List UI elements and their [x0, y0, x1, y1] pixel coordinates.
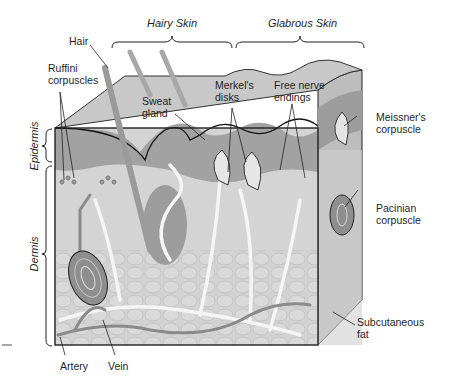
free-nerve-endings-label: Free nerve endings	[274, 79, 325, 103]
dermis-label: Dermis	[28, 232, 40, 276]
epidermis-label: Epidermis	[28, 118, 40, 174]
glabrous-skin-label: Glabrous Skin	[268, 17, 337, 29]
merkels-disks-label: Merkel's disks	[215, 79, 254, 103]
hairy-skin-label: Hairy Skin	[147, 17, 197, 29]
sweat-gland-label: Sweat gland	[142, 95, 171, 119]
subcutaneous-fat-label: Subcutaneous fat	[357, 316, 424, 340]
pacinian-corpuscle-label: Pacinian corpuscle	[376, 202, 421, 226]
ruffini-corpuscles-label: Ruffini corpuscles	[48, 62, 98, 86]
region-braces	[112, 36, 364, 48]
meissners-corpuscle-label: Meissner's corpuscle	[376, 111, 426, 135]
vein-label: Vein	[108, 360, 128, 372]
hair-label: Hair	[69, 35, 88, 47]
layer-braces	[42, 129, 52, 346]
artery-label: Artery	[60, 360, 88, 372]
